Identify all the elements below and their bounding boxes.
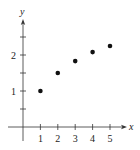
data-point bbox=[108, 44, 113, 49]
x-tick-label: 2 bbox=[55, 133, 60, 144]
y-tick-label: 1 bbox=[11, 86, 16, 97]
x-tick-label: 3 bbox=[73, 133, 78, 144]
y-axis-label: y bbox=[19, 6, 25, 17]
ticks: 1234512 bbox=[11, 37, 113, 144]
data-point bbox=[90, 50, 95, 55]
data-points bbox=[38, 44, 112, 94]
x-axis-label: x bbox=[128, 121, 134, 132]
x-tick-label: 1 bbox=[38, 133, 43, 144]
y-tick-label: 2 bbox=[11, 50, 16, 61]
data-point bbox=[56, 71, 61, 76]
scatter-chart: 1234512 x y bbox=[0, 0, 140, 150]
data-point bbox=[73, 59, 78, 64]
data-point bbox=[38, 89, 43, 94]
x-tick-label: 4 bbox=[90, 133, 95, 144]
x-tick-label: 5 bbox=[108, 133, 113, 144]
